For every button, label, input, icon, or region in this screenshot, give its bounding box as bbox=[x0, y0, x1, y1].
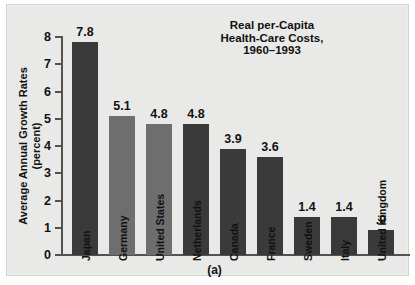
y-axis-tick-mark bbox=[55, 200, 62, 202]
bar bbox=[72, 42, 98, 255]
bar-category-label: United States bbox=[155, 194, 165, 261]
y-axis-tick-mark bbox=[55, 172, 62, 174]
y-axis-tick-mark bbox=[55, 36, 62, 38]
bar-value-label: 7.8 bbox=[62, 26, 108, 39]
chart-title: Real per-Capita Health-Care Costs, 1960–… bbox=[192, 19, 352, 57]
bar-category-label: Germany bbox=[118, 215, 128, 261]
bar-category-label: United Kingdom bbox=[377, 180, 387, 261]
bar-value-label: 3.6 bbox=[247, 141, 293, 154]
bar-value-label: 4.8 bbox=[173, 108, 219, 121]
y-axis-tick-mark bbox=[55, 254, 62, 256]
y-axis-tick-label: 2 bbox=[27, 195, 51, 207]
bar-category-label: Canada bbox=[229, 223, 239, 261]
chart-title-line-2: Health-Care Costs, bbox=[192, 32, 352, 45]
figure-caption: (a) bbox=[7, 263, 415, 277]
y-axis-tick-label: 3 bbox=[27, 167, 51, 179]
figure: Real per-Capita Health-Care Costs, 1960–… bbox=[0, 0, 415, 285]
bar-value-label: 1.4 bbox=[321, 201, 367, 214]
y-axis-tick-label: 0 bbox=[27, 249, 51, 261]
bar-category-label: Italy bbox=[340, 240, 350, 261]
y-axis-tick-mark bbox=[55, 227, 62, 229]
y-axis-tick-label: 8 bbox=[27, 31, 51, 43]
y-axis-tick-mark bbox=[55, 63, 62, 65]
y-axis-tick-label: 1 bbox=[27, 222, 51, 234]
y-axis-tick-label: 5 bbox=[27, 113, 51, 125]
bar-category-label: France bbox=[266, 227, 276, 261]
bar-category-label: Sweden bbox=[303, 221, 313, 261]
y-axis-tick-mark bbox=[55, 118, 62, 120]
chart-title-line-3: 1960–1993 bbox=[192, 44, 352, 57]
y-axis-tick-mark bbox=[55, 91, 62, 93]
y-axis-tick-label: 4 bbox=[27, 140, 51, 152]
y-axis-tick-label: 7 bbox=[27, 58, 51, 70]
y-axis-tick-label: 6 bbox=[27, 86, 51, 98]
bar-category-label: Netherlands bbox=[192, 200, 202, 261]
y-axis-tick-mark bbox=[55, 145, 62, 147]
bar-category-label: Japan bbox=[81, 231, 91, 261]
chart-panel: Real per-Capita Health-Care Costs, 1960–… bbox=[6, 4, 409, 276]
chart-title-line-1: Real per-Capita bbox=[192, 19, 352, 32]
